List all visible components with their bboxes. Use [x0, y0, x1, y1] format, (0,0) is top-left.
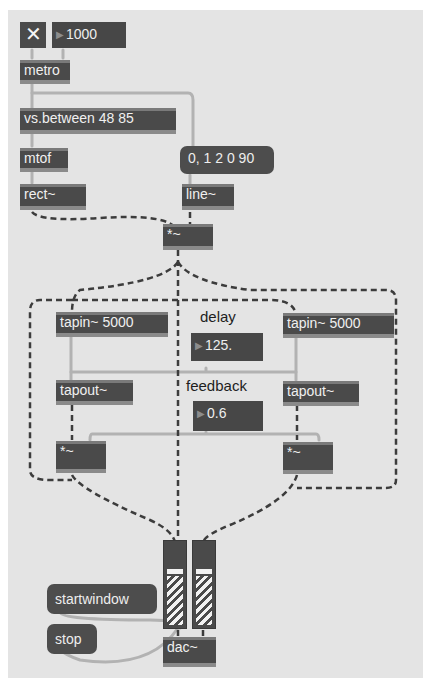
tapout-left-object[interactable]: tapout~ [56, 380, 133, 405]
meter-level-fill [167, 576, 183, 625]
stop-message[interactable]: stop [47, 624, 97, 654]
tapin-right-object[interactable]: tapin~ 5000 [283, 313, 394, 338]
meter-level-fill [196, 576, 212, 625]
tapout-right-object[interactable]: tapout~ [283, 381, 359, 406]
delay-number[interactable]: ▶125. [191, 333, 263, 361]
tapin-left-object[interactable]: tapin~ 5000 [56, 312, 168, 337]
metro-interval-number[interactable]: ▶1000 [52, 22, 126, 48]
vs-between-object[interactable]: vs.between 48 85 [20, 108, 176, 134]
meter-peak-indicator [167, 569, 183, 574]
feedback-number[interactable]: ▶0.6 [193, 401, 263, 431]
number-triangle-icon: ▶ [197, 408, 205, 419]
level-meter-left [163, 540, 187, 629]
delay-label: delay [200, 308, 236, 325]
line-object[interactable]: line~ [182, 184, 234, 210]
toggle-x-icon: ✕ [25, 23, 42, 45]
number-triangle-icon: ▶ [56, 29, 64, 40]
toggle-button[interactable]: ✕ [20, 22, 46, 48]
level-meter-right [192, 540, 216, 629]
startwindow-message[interactable]: startwindow [47, 584, 157, 614]
meter-peak-indicator [196, 569, 212, 574]
dac-object[interactable]: dac~ [163, 637, 216, 667]
number-triangle-icon: ▶ [195, 340, 203, 351]
multiply-right-object[interactable]: *~ [283, 442, 333, 474]
multiply-top-object[interactable]: *~ [163, 224, 213, 250]
mtof-object[interactable]: mtof [20, 148, 68, 172]
multiply-left-object[interactable]: *~ [56, 441, 106, 473]
envelope-message[interactable]: 0, 1 2 0 90 [180, 146, 274, 174]
rect-object[interactable]: rect~ [20, 184, 86, 210]
feedback-label: feedback [186, 377, 247, 394]
metro-object[interactable]: metro [20, 60, 70, 84]
